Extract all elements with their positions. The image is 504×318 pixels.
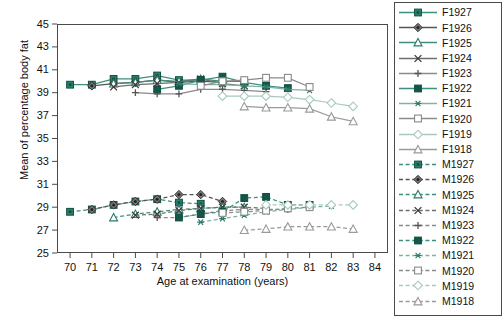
legend-swatch-triangle-open-teal — [397, 187, 439, 202]
legend-swatch-square-filled-teal — [397, 157, 439, 172]
x-tick-label: 81 — [298, 262, 322, 273]
legend-label: F1925 — [439, 38, 472, 49]
legend-label: F1923 — [439, 68, 472, 79]
legend-label: M1926 — [439, 174, 474, 185]
legend-label: F1927 — [439, 7, 472, 18]
legend-swatch-asterisk — [397, 248, 439, 263]
legend-label: F1926 — [439, 23, 472, 34]
y-axis-label: Mean of percentage body fat — [18, 25, 30, 195]
legend-item-f1919[interactable]: F1919 — [397, 127, 501, 142]
legend-label: M1922 — [439, 235, 474, 246]
legend-item-m1924[interactable]: M1924 — [397, 202, 501, 217]
plot-frame — [57, 24, 388, 253]
legend-item-m1927[interactable]: M1927 — [397, 157, 501, 172]
legend-label: F1924 — [439, 53, 472, 64]
legend-item-m1925[interactable]: M1925 — [397, 187, 501, 202]
y-tick-label: 29 — [23, 202, 49, 213]
legend-item-f1920[interactable]: F1920 — [397, 111, 501, 126]
plot-area: 2527293133353739414345707172737475767778… — [0, 0, 396, 318]
legend-label: M1920 — [439, 266, 474, 277]
legend-label: M1918 — [439, 296, 474, 307]
legend-item-f1921[interactable]: F1921 — [397, 96, 501, 111]
legend-item-f1918[interactable]: F1918 — [397, 142, 501, 157]
legend-item-m1921[interactable]: M1921 — [397, 248, 501, 263]
legend-item-f1924[interactable]: F1924 — [397, 51, 501, 66]
x-tick-label: 74 — [145, 262, 169, 273]
legend-swatch-plus — [397, 66, 439, 81]
y-tick-label: 25 — [23, 248, 49, 259]
legend-swatch-plus — [397, 218, 439, 233]
legend-label: F1921 — [439, 98, 472, 109]
legend-item-f1927[interactable]: F1927 — [397, 5, 501, 20]
legend-label: F1920 — [439, 114, 472, 125]
x-tick-label: 71 — [80, 262, 104, 273]
legend-swatch-square-solid-teal — [397, 233, 439, 248]
legend-item-m1918[interactable]: M1918 — [397, 294, 501, 309]
legend-swatch-asterisk — [397, 96, 439, 111]
legend-swatch-square-filled-teal — [397, 5, 439, 20]
legend-swatch-x — [397, 203, 439, 218]
x-tick-label: 80 — [276, 262, 300, 273]
legend-label: F1922 — [439, 83, 472, 94]
legend-swatch-diamond-open — [397, 127, 439, 142]
chart-legend: F1927F1926F1925F1924F1923F1922F1921F1920… — [394, 2, 502, 316]
legend-swatch-x — [397, 51, 439, 66]
x-tick-label: 75 — [167, 262, 191, 273]
x-tick-label: 82 — [319, 262, 343, 273]
legend-swatch-diamond-filled — [397, 172, 439, 187]
x-tick-label: 83 — [341, 262, 365, 273]
legend-swatch-triangle-open — [397, 294, 439, 309]
legend-label: F1919 — [439, 129, 472, 140]
legend-swatch-diamond-open — [397, 278, 439, 293]
legend-label: M1924 — [439, 205, 474, 216]
x-tick-label: 78 — [232, 262, 256, 273]
x-tick-label: 70 — [58, 262, 82, 273]
x-tick-label: 84 — [363, 262, 387, 273]
y-tick-label: 27 — [23, 225, 49, 236]
legend-swatch-triangle-open-teal — [397, 35, 439, 50]
legend-item-f1926[interactable]: F1926 — [397, 20, 501, 35]
legend-swatch-triangle-open — [397, 142, 439, 157]
legend-label: M1919 — [439, 281, 474, 292]
legend-swatch-square-open — [397, 263, 439, 278]
x-tick-label: 72 — [102, 262, 126, 273]
x-tick-label: 77 — [211, 262, 235, 273]
legend-label: M1927 — [439, 159, 474, 170]
legend-label: F1918 — [439, 144, 472, 155]
legend-swatch-square-solid-teal — [397, 81, 439, 96]
legend-item-f1925[interactable]: F1925 — [397, 35, 501, 50]
legend-item-m1919[interactable]: M1919 — [397, 278, 501, 293]
legend-item-m1923[interactable]: M1923 — [397, 218, 501, 233]
x-tick-label: 73 — [123, 262, 147, 273]
legend-item-f1922[interactable]: F1922 — [397, 81, 501, 96]
legend-item-f1923[interactable]: F1923 — [397, 66, 501, 81]
legend-label: M1923 — [439, 220, 474, 231]
x-tick-label: 76 — [189, 262, 213, 273]
chart-page: 2527293133353739414345707172737475767778… — [0, 0, 504, 318]
x-axis-label: Age at examination (years) — [57, 275, 388, 287]
legend-item-m1926[interactable]: M1926 — [397, 172, 501, 187]
legend-swatch-diamond-filled — [397, 20, 439, 35]
legend-item-m1922[interactable]: M1922 — [397, 233, 501, 248]
x-tick-label: 79 — [254, 262, 278, 273]
legend-swatch-square-open — [397, 111, 439, 126]
legend-label: M1921 — [439, 250, 474, 261]
legend-label: M1925 — [439, 190, 474, 201]
legend-item-m1920[interactable]: M1920 — [397, 263, 501, 278]
